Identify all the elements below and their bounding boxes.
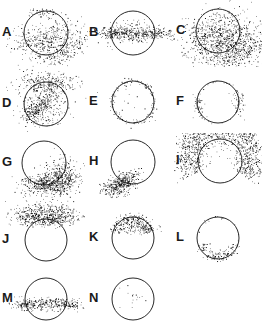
reference-circle — [112, 217, 154, 259]
panel-n: N — [87, 266, 175, 333]
panel-l: L — [174, 200, 262, 267]
point-cloud — [5, 200, 84, 229]
panel-label-k: K — [89, 230, 98, 243]
panel-plot-g — [0, 133, 88, 200]
panel-plot-h — [87, 133, 175, 200]
panel-label-b: B — [89, 25, 98, 38]
panel-label-j: J — [2, 232, 9, 245]
panel-plot-b — [87, 0, 175, 67]
point-cloud — [119, 285, 146, 308]
panel-label-i: I — [176, 153, 180, 166]
panel-label-f: F — [176, 94, 184, 107]
panel-plot-j — [0, 200, 88, 267]
panel-plot-e — [87, 67, 175, 134]
reference-circle — [197, 217, 239, 259]
panel-plot-i — [174, 133, 262, 200]
panel-label-m: M — [2, 291, 13, 304]
panel-label-h: H — [89, 154, 98, 167]
point-cloud — [193, 80, 246, 124]
point-cloud — [6, 9, 88, 67]
reference-circle — [198, 139, 242, 183]
panel-c: C — [174, 0, 262, 67]
panel-plot-f — [174, 67, 262, 134]
scatter-panel-figure: ABCDEFGHIJKLMN — [0, 0, 264, 334]
point-cloud — [174, 133, 262, 184]
panel-label-d: D — [2, 96, 11, 109]
panel-label-c: C — [176, 23, 185, 36]
panel-k: K — [87, 200, 175, 267]
reference-circle — [112, 278, 154, 320]
point-cloud — [89, 19, 175, 50]
point-cloud — [99, 168, 144, 198]
panel-label-g: G — [2, 155, 12, 168]
reference-circle — [24, 11, 68, 55]
panel-h: H — [87, 133, 175, 200]
point-cloud — [177, 0, 262, 67]
panel-label-e: E — [89, 94, 98, 107]
panel-b: B — [87, 0, 175, 67]
point-cloud — [6, 69, 86, 132]
point-cloud — [3, 296, 88, 312]
reference-circle — [25, 219, 67, 261]
panel-plot-d — [0, 67, 88, 134]
panel-m: M — [0, 266, 88, 333]
panel-label-a: A — [2, 25, 11, 38]
panel-j: J — [0, 200, 88, 267]
panel-f: F — [174, 67, 262, 134]
reference-circle — [197, 81, 239, 123]
point-cloud — [97, 78, 157, 129]
panel-plot-m — [0, 266, 88, 333]
panel-plot-c — [174, 0, 262, 67]
panel-plot-l — [174, 200, 262, 267]
panel-a: A — [0, 0, 88, 67]
panel-e: E — [87, 67, 175, 134]
reference-circle — [112, 81, 154, 123]
panel-label-n: N — [89, 291, 98, 304]
panel-g: G — [0, 133, 88, 200]
panel-i: I — [174, 133, 262, 200]
panel-label-l: L — [176, 230, 184, 243]
panel-plot-a — [0, 0, 88, 67]
panel-plot-n — [87, 266, 175, 333]
panel-plot-k — [87, 200, 175, 267]
panel-d: D — [0, 67, 88, 134]
reference-circle — [25, 278, 67, 320]
